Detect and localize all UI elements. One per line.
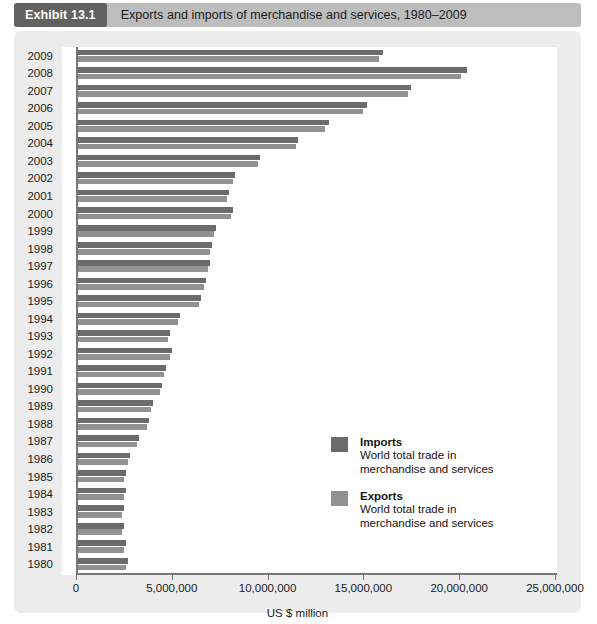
- y-axis-label: 1990: [14, 380, 58, 398]
- bar-row: [78, 47, 557, 65]
- y-axis-label: 2005: [14, 117, 58, 135]
- bar-exports: [78, 459, 128, 465]
- bar-row: [78, 65, 557, 83]
- bar-row: [78, 82, 557, 100]
- y-axis-label: 2002: [14, 170, 58, 188]
- y-axis-label: 1985: [14, 468, 58, 486]
- bar-imports: [78, 313, 180, 319]
- bar-imports: [78, 348, 172, 354]
- y-axis-label: 1991: [14, 363, 58, 381]
- bar-row: [78, 117, 557, 135]
- bar-imports: [78, 225, 216, 231]
- legend-label-imports: Imports: [360, 436, 521, 449]
- y-axis-label: 2006: [14, 100, 58, 118]
- y-axis-label: 2003: [14, 152, 58, 170]
- bar-imports: [78, 242, 212, 248]
- bar-row: [78, 152, 557, 170]
- bar-exports: [78, 477, 124, 483]
- legend-item-imports: Imports World total trade in merchandise…: [331, 436, 521, 476]
- bar-imports: [78, 435, 139, 441]
- bar-imports: [78, 172, 235, 178]
- bar-imports: [78, 383, 162, 389]
- x-axis-tick-label: 20,000,000: [430, 582, 488, 594]
- bar-exports: [78, 302, 199, 308]
- bar-exports: [78, 126, 325, 132]
- bar-imports: [78, 418, 149, 424]
- bar-exports: [78, 74, 461, 80]
- bar-imports: [78, 523, 124, 529]
- bar-row: [78, 310, 557, 328]
- bar-exports: [78, 565, 126, 571]
- bar-imports: [78, 453, 130, 459]
- bar-imports: [78, 120, 329, 126]
- bar-row: [78, 398, 557, 416]
- y-axis-label: 1984: [14, 485, 58, 503]
- bar-exports: [78, 372, 164, 378]
- bar-imports: [78, 85, 411, 91]
- bar-exports: [78, 337, 168, 343]
- y-axis-label: 1981: [14, 538, 58, 556]
- bar-exports: [78, 179, 233, 185]
- bar-exports: [78, 407, 151, 413]
- bar-row: [78, 187, 557, 205]
- bar-exports: [78, 109, 363, 115]
- bar-imports: [78, 488, 126, 494]
- y-axis-label: 1983: [14, 503, 58, 521]
- x-axis-tick-label: 10,000,000: [239, 582, 297, 594]
- y-axis-label: 1987: [14, 433, 58, 451]
- x-axis-tick-mark: [555, 575, 556, 580]
- bar-row: [78, 170, 557, 188]
- y-axis-label: 1996: [14, 275, 58, 293]
- bar-exports: [78, 494, 124, 500]
- chart-panel: 2009200820072006200520042003200220012000…: [14, 31, 581, 613]
- bar-exports: [78, 231, 214, 237]
- legend-desc-exports-line1: World total trade in: [360, 503, 521, 517]
- legend-desc-imports-line1: World total trade in: [360, 449, 521, 463]
- x-axis-tick-mark: [363, 575, 364, 580]
- bar-row: [78, 555, 557, 573]
- x-axis-tick-label: 5,000,000: [146, 582, 197, 594]
- bar-exports: [78, 389, 160, 395]
- legend-label-exports: Exports: [360, 490, 521, 503]
- bar-row: [78, 345, 557, 363]
- x-axis-tick-mark: [459, 575, 460, 580]
- bar-exports: [78, 512, 122, 518]
- bar-imports: [78, 365, 166, 371]
- bar-row: [78, 257, 557, 275]
- exhibit-header: Exhibit 13.1 Exports and imports of merc…: [14, 3, 581, 27]
- legend-swatch-imports-icon: [331, 437, 348, 452]
- y-axis-label: 1980: [14, 555, 58, 573]
- bar-row: [78, 415, 557, 433]
- bar-exports: [78, 91, 408, 97]
- bar-row: [78, 205, 557, 223]
- bar-row: [78, 380, 557, 398]
- bar-row: [78, 240, 557, 258]
- y-axis-label: 1994: [14, 310, 58, 328]
- bar-imports: [78, 137, 298, 143]
- bar-imports: [78, 155, 260, 161]
- bar-imports: [78, 330, 170, 336]
- bar-imports: [78, 190, 229, 196]
- y-axis-label: 2001: [14, 187, 58, 205]
- y-axis-label: 2009: [14, 47, 58, 65]
- bar-imports: [78, 102, 367, 108]
- x-axis-ticks: 05,000,00010,000,00015,000,00020,000,000…: [76, 575, 557, 605]
- y-axis-label: 1993: [14, 328, 58, 346]
- bar-exports: [78, 284, 204, 290]
- x-axis-tick-label: 25,000,000: [526, 582, 584, 594]
- y-axis-label: 1999: [14, 222, 58, 240]
- bar-imports: [78, 50, 383, 56]
- x-axis-tick-mark: [268, 575, 269, 580]
- bar-row: [78, 292, 557, 310]
- legend-swatch-exports-icon: [331, 491, 348, 506]
- y-axis-label: 1982: [14, 520, 58, 538]
- x-axis-tick-label: 0: [73, 582, 79, 594]
- chart-legend: Imports World total trade in merchandise…: [331, 436, 521, 544]
- bar-imports: [78, 278, 206, 284]
- bar-exports: [78, 56, 379, 62]
- bar-imports: [78, 558, 128, 564]
- legend-desc-exports-line2: merchandise and services: [360, 517, 521, 531]
- x-axis-tick-label: 15,000,000: [335, 582, 393, 594]
- bar-exports: [78, 424, 147, 430]
- y-axis-label: 1995: [14, 292, 58, 310]
